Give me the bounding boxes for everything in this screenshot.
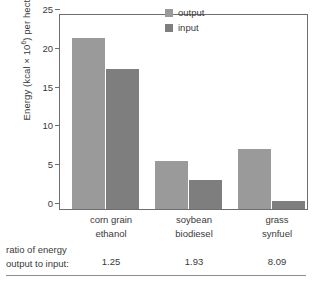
bar-series-container bbox=[60, 15, 307, 209]
y-axis-tick-15: 15 bbox=[4, 82, 60, 93]
y-axis-tick-label: 15 bbox=[42, 82, 53, 93]
y-axis-tick-label: 10 bbox=[42, 120, 53, 131]
ratio-value-soybean-biodiesel: 1.93 bbox=[148, 256, 240, 267]
ratio-value-grass-synfuel: 8.09 bbox=[231, 256, 316, 267]
legend: output input bbox=[165, 6, 204, 36]
y-axis-tick-label: 5 bbox=[48, 159, 53, 170]
legend-label-input: input bbox=[178, 22, 199, 33]
bar-group-corn-grain-ethanol bbox=[72, 15, 164, 209]
energy-balance-bar-chart: Energy (kcal × 106) per hectare 05101520… bbox=[0, 0, 316, 284]
x-axis-label-corn-grain-ethanol: corn grainethanol bbox=[65, 213, 157, 240]
x-axis-label-line: corn grain bbox=[65, 213, 157, 227]
x-axis-label-line: biodiesel bbox=[148, 227, 240, 241]
y-axis-tick-5: 5 bbox=[4, 159, 60, 170]
bar-input-soybean-biodiesel bbox=[189, 180, 222, 209]
y-axis-tick-label: 20 bbox=[42, 43, 53, 54]
bar-output-corn-grain-ethanol bbox=[72, 38, 105, 209]
y-axis-tick-mark bbox=[55, 9, 60, 10]
legend-item-input: input bbox=[165, 21, 204, 34]
bar-output-soybean-biodiesel bbox=[155, 161, 188, 209]
y-axis-tick-0: 0 bbox=[4, 198, 60, 209]
x-axis-label-line: grass bbox=[231, 213, 316, 227]
x-axis-label-line: ethanol bbox=[65, 227, 157, 241]
legend-label-output: output bbox=[178, 7, 204, 18]
bar-group-grass-synfuel bbox=[238, 15, 316, 209]
x-axis-label-soybean-biodiesel: soybeanbiodiesel bbox=[148, 213, 240, 240]
y-axis-tick-20: 20 bbox=[4, 43, 60, 54]
y-axis-tick-25: 25 bbox=[4, 4, 60, 15]
bar-input-corn-grain-ethanol bbox=[106, 69, 139, 209]
x-axis-category-labels: corn grainethanolsoybeanbiodieselgrasssy… bbox=[59, 213, 308, 241]
ratio-values-row: 1.251.938.09 bbox=[59, 256, 308, 270]
bar-group-soybean-biodiesel bbox=[155, 15, 247, 209]
legend-swatch-output-icon bbox=[165, 9, 173, 17]
y-axis-tick-label: 25 bbox=[42, 4, 53, 15]
legend-item-output: output bbox=[165, 6, 204, 19]
x-axis-label-line: soybean bbox=[148, 213, 240, 227]
y-axis-title: Energy (kcal × 106) per hectare bbox=[20, 0, 34, 128]
x-axis-label-line: synfuel bbox=[231, 227, 316, 241]
ratio-caption-line1: ratio of energy bbox=[6, 243, 69, 257]
bottom-divider bbox=[6, 275, 306, 276]
legend-swatch-input-icon bbox=[165, 24, 173, 32]
bar-output-grass-synfuel bbox=[238, 149, 271, 209]
x-axis-label-grass-synfuel: grasssynfuel bbox=[231, 213, 316, 240]
y-axis-tick-10: 10 bbox=[4, 120, 60, 131]
plot-area: 0510152025 bbox=[59, 14, 308, 210]
bar-input-grass-synfuel bbox=[272, 201, 305, 209]
ratio-value-corn-grain-ethanol: 1.25 bbox=[65, 256, 157, 267]
y-axis-tick-label: 0 bbox=[48, 198, 53, 209]
